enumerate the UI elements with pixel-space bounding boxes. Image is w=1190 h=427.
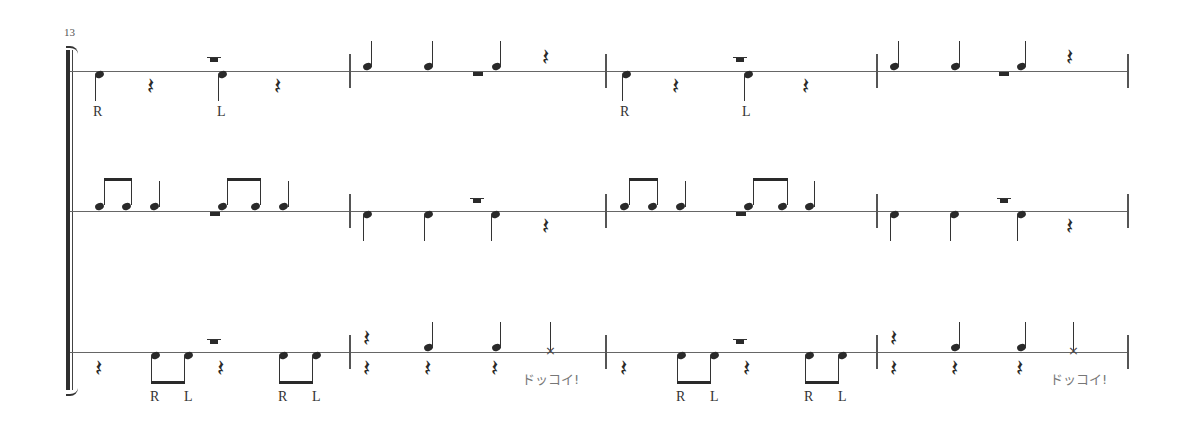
note-stem [131, 179, 132, 205]
note-stem [363, 215, 364, 241]
note-stem [890, 215, 891, 241]
barline [876, 194, 878, 228]
staff-line-3 [70, 352, 1129, 353]
quarter-rest-icon: 𝄽 [890, 326, 897, 350]
barline [876, 54, 878, 88]
quarter-rest-icon: 𝄽 [147, 74, 154, 98]
sticking-label: L [742, 104, 751, 120]
ledger-mark [473, 72, 483, 76]
barline [349, 194, 351, 228]
sticking-label: L [312, 389, 321, 405]
accent-mark-icon [210, 58, 218, 62]
beam [753, 178, 788, 181]
quarter-rest-icon: 𝄽 [542, 45, 549, 69]
ledger-mark [736, 212, 746, 216]
measure-number: 13 [64, 26, 75, 38]
note-stem [279, 356, 280, 382]
note-stem [838, 356, 839, 382]
note-stem [218, 75, 219, 101]
accent-mark-icon [736, 340, 744, 344]
sticking-label: R [804, 389, 813, 405]
shout-label: ドッコイ! [522, 369, 579, 388]
note-stem [629, 179, 630, 205]
barline [1127, 194, 1129, 228]
quarter-rest-icon: 𝄽 [95, 356, 102, 380]
system-bracket-line [72, 50, 73, 390]
note-stem [491, 215, 492, 241]
note-stem [184, 356, 185, 382]
quarter-rest-icon: 𝄽 [274, 74, 281, 98]
system-bracket-bottom [66, 388, 78, 396]
note-stem [744, 75, 745, 101]
shout-label: ドッコイ! [1050, 369, 1107, 388]
barline [605, 335, 607, 369]
barline [349, 54, 351, 88]
drum-score: 13 R 𝄽 L 𝄽 𝄽 R 𝄽 L 𝄽 [0, 0, 1190, 427]
note-stem [959, 322, 960, 348]
note-stem [1025, 41, 1026, 67]
note-stem [260, 179, 261, 205]
barline [605, 194, 607, 228]
note-stem [432, 41, 433, 67]
sticking-label: L [217, 104, 226, 120]
quarter-rest-icon: 𝄽 [1016, 356, 1023, 380]
accent-mark-icon [736, 58, 744, 62]
sticking-label: R [620, 104, 629, 120]
note-stem [159, 181, 160, 207]
system-bracket [66, 50, 70, 390]
beam [227, 178, 261, 181]
note-stem [500, 322, 501, 348]
staff-line-2 [70, 211, 1129, 212]
note-stem [710, 356, 711, 382]
note-stem [657, 179, 658, 205]
ledger-mark [210, 212, 220, 216]
note-stem [677, 356, 678, 382]
beam [279, 381, 313, 384]
sticking-label: R [93, 104, 102, 120]
beam [629, 178, 658, 181]
quarter-rest-icon: 𝄽 [363, 356, 370, 380]
note-stem [500, 41, 501, 67]
note-stem [288, 181, 289, 207]
quarter-rest-icon: 𝄽 [542, 214, 549, 238]
sticking-label: L [710, 389, 719, 405]
beam [151, 381, 185, 384]
beam [805, 381, 839, 384]
accent-mark-icon [1000, 199, 1008, 203]
quarter-rest-icon: 𝄽 [424, 356, 431, 380]
note-stem [685, 181, 686, 207]
note-stem [814, 181, 815, 207]
quarter-rest-icon: 𝄽 [1066, 45, 1073, 69]
note-stem [371, 41, 372, 67]
x-notehead-icon: × [545, 343, 556, 358]
quarter-rest-icon: 𝄽 [491, 356, 498, 380]
sticking-label: L [184, 389, 193, 405]
note-stem [104, 179, 105, 205]
quarter-rest-icon: 𝄽 [363, 326, 370, 350]
x-notehead-icon: × [1068, 343, 1079, 358]
ledger-mark [999, 72, 1009, 76]
quarter-rest-icon: 𝄽 [890, 356, 897, 380]
barline [876, 335, 878, 369]
note-stem [898, 41, 899, 67]
sticking-label: R [676, 389, 685, 405]
quarter-rest-icon: 𝄽 [620, 356, 627, 380]
accent-mark-icon [473, 199, 481, 203]
quarter-rest-icon: 𝄽 [802, 74, 809, 98]
note-stem [959, 41, 960, 67]
quarter-rest-icon: 𝄽 [951, 356, 958, 380]
barline [605, 54, 607, 88]
note-stem [424, 215, 425, 241]
note-stem [753, 179, 754, 205]
note-stem [151, 356, 152, 382]
sticking-label: R [278, 389, 287, 405]
quarter-rest-icon: 𝄽 [672, 74, 679, 98]
note-stem [312, 356, 313, 382]
quarter-rest-icon: 𝄽 [1066, 214, 1073, 238]
barline [1127, 335, 1129, 369]
note-stem [622, 75, 623, 101]
sticking-label: R [150, 389, 159, 405]
note-stem [950, 215, 951, 241]
accent-mark-icon [210, 340, 218, 344]
barline [1127, 54, 1129, 88]
